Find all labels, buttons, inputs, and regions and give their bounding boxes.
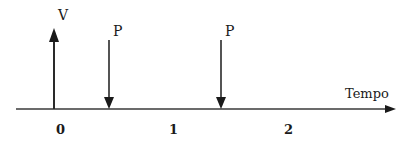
- arrow-up-icon: [49, 28, 59, 42]
- arrow-down-icon: [104, 97, 114, 109]
- cash-flow-diagram: Tempo V P P 0 1 2: [0, 0, 407, 149]
- axis-label: Tempo: [345, 86, 389, 101]
- arrow-down-icon: [216, 97, 226, 109]
- time-axis: [16, 105, 396, 113]
- tick-label-0: 0: [56, 122, 65, 137]
- arrow-p-1: [104, 40, 114, 109]
- tick-label-1: 1: [169, 122, 178, 137]
- arrow-label-v: V: [57, 7, 69, 23]
- arrow-label-p-1: P: [113, 23, 122, 39]
- arrow-p-2: [216, 40, 226, 109]
- arrow-v: [49, 28, 59, 109]
- arrow-label-p-2: P: [225, 23, 234, 39]
- axis-arrowhead-icon: [385, 105, 396, 113]
- tick-label-2: 2: [284, 122, 293, 137]
